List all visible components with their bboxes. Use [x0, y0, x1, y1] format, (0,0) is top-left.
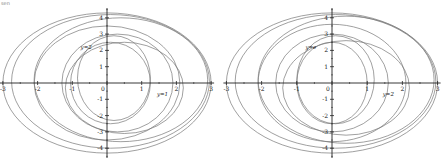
x-tick-label: 1: [140, 85, 144, 92]
y-tick-label: 2: [324, 46, 328, 53]
y-tick-label: -4: [97, 144, 103, 151]
x-tick-label: 3: [436, 85, 440, 92]
x-tick-label: 0: [101, 85, 105, 92]
y-tick-label: -2: [97, 112, 103, 119]
y-tick-label: 1: [99, 63, 103, 70]
y-tick-label: 4: [99, 14, 103, 21]
y-tick-label: -3: [322, 128, 328, 135]
y-tick-label: -3: [97, 128, 103, 135]
y-tick-label: 4: [324, 14, 328, 21]
curve-4: [283, 41, 410, 136]
y-tick-label: -1: [97, 95, 103, 102]
x-tick-label: -2: [259, 85, 265, 92]
curve-annotation: y=1: [156, 91, 168, 98]
y-tick-label: 1: [324, 63, 328, 70]
x-tick-label: 0: [326, 85, 330, 92]
curve-annotation: y=2: [80, 44, 93, 51]
x-tick-label: 2: [174, 85, 178, 92]
right-chart-svg: -3-2-101234321-1-2-3-4y=ey=2: [221, 0, 442, 162]
curve-annotation: y=e: [304, 44, 317, 51]
x-tick-label: -2: [35, 85, 41, 92]
x-tick-label: 3: [209, 85, 213, 92]
x-tick-label: -1: [294, 85, 300, 92]
right-chart-panel: -3-2-101234321-1-2-3-4y=ey=2: [221, 0, 442, 162]
y-tick-label: -4: [322, 144, 328, 151]
left-chart-svg: -3-2-101234321-1-2-3-4y=2y=1: [0, 0, 221, 162]
y-tick-label: -2: [322, 112, 328, 119]
y-tick-label: 3: [99, 30, 103, 37]
x-tick-label: 1: [365, 85, 369, 92]
x-tick-label: -1: [69, 85, 75, 92]
left-chart-panel: -3-2-101234321-1-2-3-4y=2y=1: [0, 0, 221, 162]
y-tick-label: -1: [322, 95, 328, 102]
curve-annotation: y=2: [382, 91, 395, 98]
x-tick-label: -3: [0, 85, 6, 92]
x-tick-label: 2: [400, 85, 404, 92]
y-tick-label: 2: [99, 46, 103, 53]
x-tick-label: -3: [223, 85, 229, 92]
y-tick-label: 3: [324, 30, 328, 37]
